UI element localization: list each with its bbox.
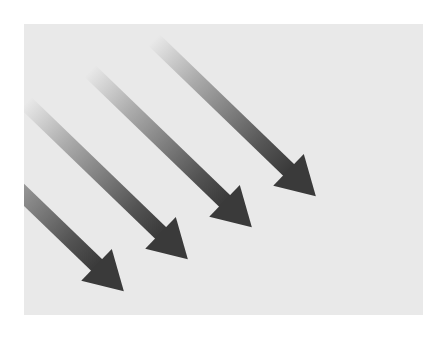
gray-panel [24,24,423,315]
